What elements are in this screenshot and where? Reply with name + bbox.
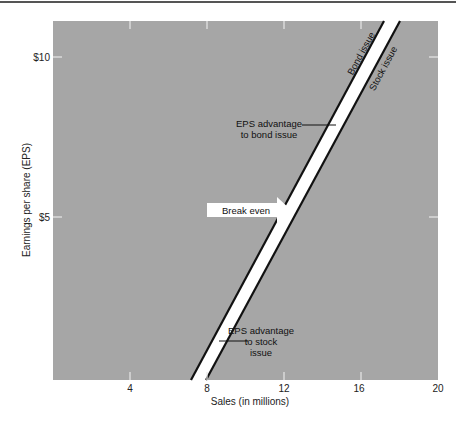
bond-advantage-label-2: to bond issue xyxy=(241,129,298,140)
stock-advantage-label-3: issue xyxy=(250,347,272,358)
x-tick-20: 20 xyxy=(432,383,444,394)
x-tick-8: 8 xyxy=(204,383,210,394)
x-tick-4: 4 xyxy=(127,383,133,394)
eps-chart: $10 $5 4 8 12 16 20 Sales (in millions) … xyxy=(0,0,466,427)
break-even-label: Break even xyxy=(222,205,270,216)
bond-advantage-label-1: EPS advantage xyxy=(236,118,302,129)
y-tick-10: $10 xyxy=(33,52,50,63)
x-axis-title: Sales (in millions) xyxy=(211,396,289,407)
x-tick-16: 16 xyxy=(353,383,365,394)
x-tick-12: 12 xyxy=(278,383,290,394)
y-axis-title: Earnings per share (EPS) xyxy=(21,143,32,257)
y-tick-5: $5 xyxy=(39,212,51,223)
stock-advantage-label-2: to stock xyxy=(245,336,278,347)
stock-advantage-label-1: EPS advantage xyxy=(228,325,294,336)
